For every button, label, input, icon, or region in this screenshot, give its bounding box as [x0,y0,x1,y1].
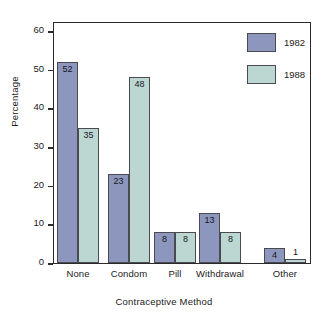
bar [285,259,306,263]
legend-item: 1982 [247,33,317,52]
bar-value-label: 4 [264,250,285,260]
legend-label: 1988 [284,69,305,80]
legend-swatch [247,33,276,52]
bar [129,77,150,263]
bar-value-label: 52 [57,64,78,74]
bar [78,128,99,263]
tick-mark [48,186,53,188]
x-axis-tick-label: Other [240,268,328,279]
legend-label: 1982 [284,37,305,48]
y-axis-tick: 50 [0,70,53,71]
y-axis-tick-label: 50 [33,63,44,74]
tick-mark [48,108,53,110]
bar-value-label: 8 [154,234,175,244]
y-axis-tick: 30 [0,147,53,148]
tick-mark [48,263,53,265]
tick-mark [48,70,53,72]
y-axis-title: Percentage [9,52,20,152]
bar-value-label: 35 [78,130,99,140]
legend-item: 1988 [247,65,317,84]
bar-value-label: 48 [129,79,150,89]
bar-value-label: 13 [199,215,220,225]
bar [57,62,78,263]
bar-value-label: 8 [220,234,241,244]
y-axis-tick-label: 10 [33,217,44,228]
y-axis-tick-label: 60 [33,24,44,35]
y-axis-tick-label: 20 [33,179,44,190]
y-axis-tick-label: 30 [33,140,44,151]
x-axis-title: Contraceptive Method [0,296,328,307]
tick-mark [48,147,53,149]
bar-value-label: 8 [175,234,196,244]
tick-mark [48,31,53,33]
bar [108,174,129,263]
y-axis-tick: 40 [0,108,53,109]
bar-value-label: 23 [108,176,129,186]
y-axis-tick: 20 [0,186,53,187]
y-axis-tick-label: 40 [33,101,44,112]
bar-value-label: 1 [285,247,306,257]
y-axis-tick: 60 [0,31,53,32]
y-axis-tick-label: 0 [39,256,44,267]
y-axis-tick: 10 [0,224,53,225]
y-axis-tick: 0 [0,263,53,264]
bar-chart: Percentage 6050403020100 523523488813841… [0,0,328,316]
legend-swatch [247,65,276,84]
tick-mark [48,224,53,226]
